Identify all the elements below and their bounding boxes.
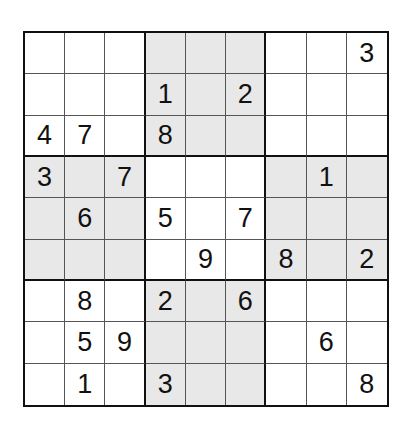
cell-r8-c9[interactable] — [347, 322, 387, 363]
cell-r8-c7[interactable] — [266, 322, 306, 363]
cell-r2-c9[interactable] — [347, 74, 387, 115]
cell-r9-c1[interactable] — [25, 364, 65, 405]
cell-r4-c8[interactable]: 1 — [307, 157, 347, 198]
cell-r3-c7[interactable] — [266, 116, 306, 157]
cell-r8-c8[interactable]: 6 — [307, 322, 347, 363]
cell-r7-c1[interactable] — [25, 281, 65, 322]
cell-r6-c6[interactable] — [226, 240, 266, 281]
cell-r5-c2[interactable]: 6 — [65, 198, 105, 239]
cell-r7-c4[interactable]: 2 — [146, 281, 186, 322]
cell-r2-c1[interactable] — [25, 74, 65, 115]
cell-r1-c5[interactable] — [186, 33, 226, 74]
cell-r5-c6[interactable]: 7 — [226, 198, 266, 239]
cell-r3-c4[interactable]: 8 — [146, 116, 186, 157]
cell-r2-c8[interactable] — [307, 74, 347, 115]
cell-r1-c2[interactable] — [65, 33, 105, 74]
cell-r4-c3[interactable]: 7 — [105, 157, 145, 198]
cell-r8-c6[interactable] — [226, 322, 266, 363]
cell-r9-c3[interactable] — [105, 364, 145, 405]
cell-r3-c2[interactable]: 7 — [65, 116, 105, 157]
cell-r8-c4[interactable] — [146, 322, 186, 363]
cell-r1-c9[interactable]: 3 — [347, 33, 387, 74]
cell-r5-c4[interactable]: 5 — [146, 198, 186, 239]
cell-r4-c4[interactable] — [146, 157, 186, 198]
cell-r6-c8[interactable] — [307, 240, 347, 281]
cell-r7-c7[interactable] — [266, 281, 306, 322]
cell-r1-c8[interactable] — [307, 33, 347, 74]
cell-r9-c5[interactable] — [186, 364, 226, 405]
cell-r9-c2[interactable]: 1 — [65, 364, 105, 405]
cell-r5-c5[interactable] — [186, 198, 226, 239]
cell-r9-c9[interactable]: 8 — [347, 364, 387, 405]
sudoku-board: 312478371657982826596138 — [23, 31, 389, 407]
cell-r6-c4[interactable] — [146, 240, 186, 281]
cell-r4-c6[interactable] — [226, 157, 266, 198]
cell-r8-c3[interactable]: 9 — [105, 322, 145, 363]
cell-r9-c7[interactable] — [266, 364, 306, 405]
cell-r4-c2[interactable] — [65, 157, 105, 198]
cell-r1-c4[interactable] — [146, 33, 186, 74]
cell-r4-c9[interactable] — [347, 157, 387, 198]
cell-r3-c1[interactable]: 4 — [25, 116, 65, 157]
cell-r2-c2[interactable] — [65, 74, 105, 115]
cell-r8-c1[interactable] — [25, 322, 65, 363]
cell-r3-c6[interactable] — [226, 116, 266, 157]
cell-r1-c7[interactable] — [266, 33, 306, 74]
cell-r6-c7[interactable]: 8 — [266, 240, 306, 281]
cell-r2-c4[interactable]: 1 — [146, 74, 186, 115]
cell-r7-c3[interactable] — [105, 281, 145, 322]
cell-r7-c9[interactable] — [347, 281, 387, 322]
cell-r6-c3[interactable] — [105, 240, 145, 281]
cell-r8-c5[interactable] — [186, 322, 226, 363]
cell-r5-c8[interactable] — [307, 198, 347, 239]
cell-r9-c4[interactable]: 3 — [146, 364, 186, 405]
cell-r7-c5[interactable] — [186, 281, 226, 322]
cell-r2-c7[interactable] — [266, 74, 306, 115]
cell-r6-c2[interactable] — [65, 240, 105, 281]
cell-r9-c6[interactable] — [226, 364, 266, 405]
cell-r4-c7[interactable] — [266, 157, 306, 198]
cell-r5-c7[interactable] — [266, 198, 306, 239]
cell-r9-c8[interactable] — [307, 364, 347, 405]
cell-r5-c9[interactable] — [347, 198, 387, 239]
cell-r7-c2[interactable]: 8 — [65, 281, 105, 322]
cell-r2-c3[interactable] — [105, 74, 145, 115]
cell-r1-c1[interactable] — [25, 33, 65, 74]
cell-r1-c6[interactable] — [226, 33, 266, 74]
cell-r3-c3[interactable] — [105, 116, 145, 157]
cell-r3-c5[interactable] — [186, 116, 226, 157]
cell-r6-c5[interactable]: 9 — [186, 240, 226, 281]
cell-r5-c3[interactable] — [105, 198, 145, 239]
cell-r6-c9[interactable]: 2 — [347, 240, 387, 281]
cell-r2-c6[interactable]: 2 — [226, 74, 266, 115]
cell-r8-c2[interactable]: 5 — [65, 322, 105, 363]
cell-r1-c3[interactable] — [105, 33, 145, 74]
cell-r4-c1[interactable]: 3 — [25, 157, 65, 198]
cell-r3-c8[interactable] — [307, 116, 347, 157]
cell-r2-c5[interactable] — [186, 74, 226, 115]
cell-r4-c5[interactable] — [186, 157, 226, 198]
cell-r6-c1[interactable] — [25, 240, 65, 281]
cell-r5-c1[interactable] — [25, 198, 65, 239]
cell-r7-c8[interactable] — [307, 281, 347, 322]
cell-r3-c9[interactable] — [347, 116, 387, 157]
cell-r7-c6[interactable]: 6 — [226, 281, 266, 322]
